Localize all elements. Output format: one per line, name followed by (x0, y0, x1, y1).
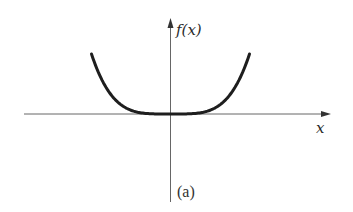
figure-caption: (a) (177, 183, 195, 201)
x-axis-arrow-icon (321, 111, 331, 117)
x-axis-label: x (316, 119, 325, 137)
y-axis-label: f(x) (175, 21, 202, 39)
function-plot: f(x) x (a) (0, 0, 353, 212)
y-axis-arrow-icon (168, 18, 174, 28)
